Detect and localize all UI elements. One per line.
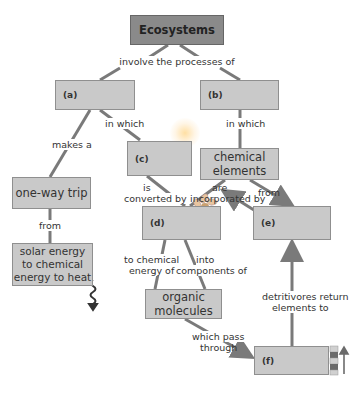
link-trip-from: from xyxy=(39,220,61,231)
node-a-blank[interactable]: (a) xyxy=(55,80,135,110)
link-which-pass: which pass xyxy=(192,331,244,342)
link-elements-to: elements to xyxy=(272,302,329,313)
link-from-elements: from xyxy=(258,187,280,198)
link-b-in-which: in which xyxy=(226,118,265,129)
node-f-blank[interactable]: (f) xyxy=(254,346,329,375)
link-to-chemical: to chemical xyxy=(124,254,179,265)
link-incorporated-by: incorporated by xyxy=(190,193,265,204)
up-arrow-icon xyxy=(340,347,348,374)
link-a-in-which: in which xyxy=(105,118,144,129)
node-chemical-elements: chemical elements xyxy=(200,148,279,180)
node-b-blank[interactable]: (b) xyxy=(200,80,279,110)
node-c-blank[interactable]: (c) xyxy=(127,141,192,176)
link-involve-processes: involve the processes of xyxy=(118,56,236,67)
node-d-blank[interactable]: (d) xyxy=(142,206,221,240)
node-ecosystems: Ecosystems xyxy=(130,15,224,45)
trophic-layers-icon xyxy=(330,346,338,375)
node-solar-to-heat: solar energy to chemical energy to heat xyxy=(12,243,93,286)
link-energy-of: energy of xyxy=(129,265,174,276)
node-e-blank[interactable]: (e) xyxy=(253,206,331,240)
node-one-way-trip: one-way trip xyxy=(12,177,91,209)
link-are: are xyxy=(212,182,227,193)
link-makes-a: makes a xyxy=(52,139,92,150)
link-into: into xyxy=(196,254,214,265)
link-components-of: components of xyxy=(176,265,247,276)
link-detritivores-return: detritivores return xyxy=(262,291,349,302)
link-through: through xyxy=(200,342,237,353)
link-is: is xyxy=(143,182,151,193)
node-organic-molecules: organic molecules xyxy=(145,289,222,319)
link-converted-by: converted by xyxy=(124,193,187,204)
